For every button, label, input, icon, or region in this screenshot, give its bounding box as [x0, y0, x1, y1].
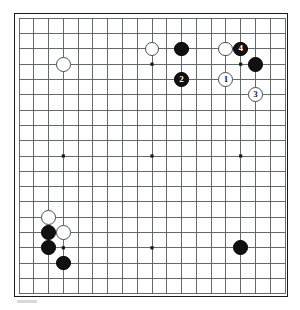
stone-move-number: 4	[234, 43, 247, 56]
go-board[interactable]: 4213	[14, 13, 288, 297]
stone-black[interactable]	[41, 225, 56, 240]
stone-white-move-3[interactable]: 3	[248, 87, 263, 102]
stone-black[interactable]	[56, 256, 71, 271]
go-diagram: 4213	[0, 0, 300, 310]
stone-white[interactable]	[41, 210, 56, 225]
caption-mark	[17, 300, 37, 303]
stone-white[interactable]	[56, 225, 71, 240]
stone-move-number: 1	[219, 73, 232, 86]
stone-white[interactable]	[56, 57, 71, 72]
stone-black[interactable]	[248, 57, 263, 72]
stone-move-number: 2	[175, 73, 188, 86]
stone-white-move-1[interactable]: 1	[218, 72, 233, 87]
stone-white[interactable]	[145, 42, 160, 57]
stone-white[interactable]	[218, 42, 233, 57]
stone-black[interactable]	[233, 240, 248, 255]
stone-move-number: 3	[249, 88, 262, 101]
stone-black-move-4[interactable]: 4	[233, 42, 248, 57]
stones-layer: 4213	[15, 14, 289, 298]
stone-black[interactable]	[174, 42, 189, 57]
stone-black[interactable]	[41, 240, 56, 255]
stone-black-move-2[interactable]: 2	[174, 72, 189, 87]
